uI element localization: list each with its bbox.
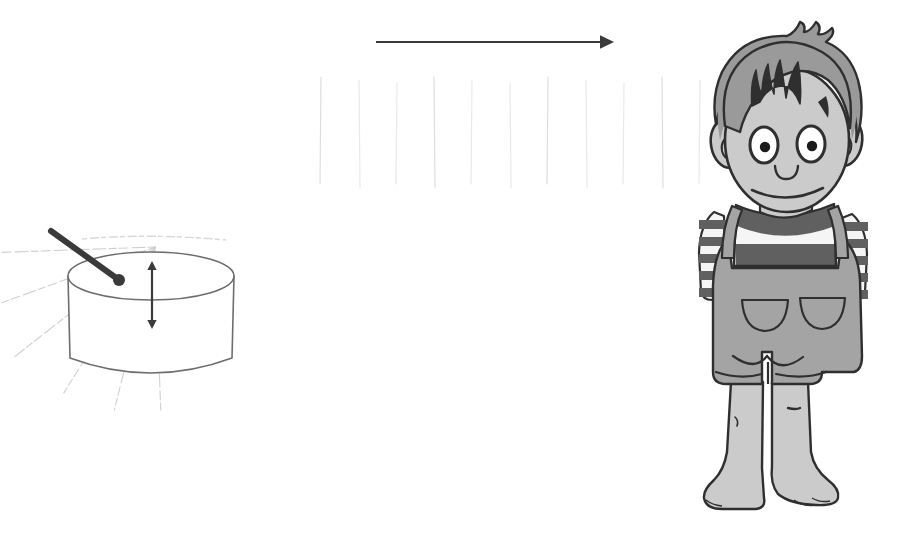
drum-skin-vibration-line — [82, 236, 226, 240]
drumstick-tip — [113, 274, 125, 286]
wavefront-line — [320, 77, 321, 184]
left-leg — [704, 382, 764, 509]
illustration-canvas — [0, 0, 904, 536]
wavefront-line — [359, 80, 360, 188]
right-pupil — [807, 141, 817, 151]
wavefront-line — [434, 77, 435, 188]
right-knee-mark — [788, 408, 800, 409]
legs — [704, 382, 838, 509]
wavefront-line — [510, 83, 511, 188]
left-pupil — [760, 142, 770, 152]
wavefront-line — [623, 83, 624, 184]
wavefront-line — [699, 80, 700, 184]
listening-boy — [699, 22, 868, 509]
vertical-wavefront-lines — [320, 77, 700, 188]
arrow-head — [600, 35, 614, 49]
wavefront-line — [471, 80, 472, 184]
chest-stripe-dark-bottom — [736, 244, 835, 266]
wavefront-line — [547, 77, 548, 184]
wavefront-line — [396, 83, 397, 184]
wavefront-line — [662, 77, 663, 188]
wavefront-line — [586, 80, 587, 188]
right-leg — [772, 382, 839, 505]
sound-wave-illustration — [0, 0, 904, 536]
direction-of-travel-arrow — [376, 35, 614, 49]
sleeve-stripe — [699, 220, 727, 229]
